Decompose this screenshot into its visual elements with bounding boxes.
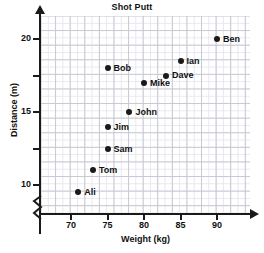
x-axis-tick xyxy=(70,213,72,220)
data-point-label: Tom xyxy=(99,165,117,175)
data-point xyxy=(214,36,220,42)
x-axis-tick xyxy=(143,213,145,220)
y-axis-arrow-icon xyxy=(35,5,45,14)
x-axis-tick xyxy=(216,213,218,220)
y-axis-tick xyxy=(33,75,41,77)
data-point xyxy=(163,73,169,79)
data-point-label: John xyxy=(135,107,157,117)
x-axis-tick-label: 80 xyxy=(132,220,156,230)
x-axis-tick-label: 70 xyxy=(59,220,83,230)
data-point-label: Bob xyxy=(114,63,132,73)
data-point-label: Dave xyxy=(172,70,194,80)
data-point-label: Ben xyxy=(223,34,240,44)
y-axis-title: Distance (m) xyxy=(9,55,19,165)
x-axis-tick xyxy=(180,213,182,220)
x-axis-arrow-icon xyxy=(250,209,259,219)
data-point-label: Mike xyxy=(150,78,170,88)
x-axis-tick xyxy=(107,213,109,220)
y-axis-tick xyxy=(33,184,41,186)
x-axis-tick-label: 90 xyxy=(205,220,229,230)
data-point-label: Ali xyxy=(84,187,96,197)
data-point xyxy=(141,80,147,86)
scatter-chart: Shot Putt AliTomSamJimJohnMikeDaveBobIan… xyxy=(0,0,264,253)
data-point xyxy=(105,65,111,71)
y-axis-tick xyxy=(33,148,41,150)
x-axis-tick-label: 75 xyxy=(96,220,120,230)
plot-area: AliTomSamJimJohnMikeDaveBobIanBen xyxy=(41,16,250,214)
y-axis-tick-label: 20 xyxy=(7,33,31,43)
data-point-label: Sam xyxy=(114,144,133,154)
x-axis-title: Weight (kg) xyxy=(41,234,250,244)
x-axis-tick-label: 85 xyxy=(169,220,193,230)
data-point xyxy=(178,58,184,64)
y-axis-tick-label: 10 xyxy=(7,179,31,189)
data-point xyxy=(105,146,111,152)
y-axis-tick xyxy=(33,38,41,40)
y-axis-break-icon xyxy=(30,195,44,225)
y-axis-tick xyxy=(33,111,41,113)
data-point xyxy=(105,124,111,130)
data-point-label: Jim xyxy=(114,122,130,132)
data-point-label: Ian xyxy=(187,56,200,66)
